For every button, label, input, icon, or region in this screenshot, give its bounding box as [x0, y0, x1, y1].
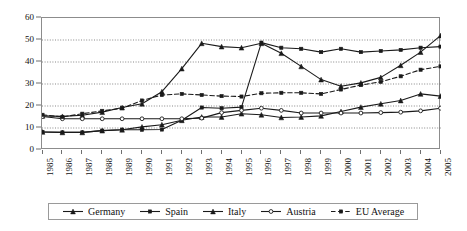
x-axis-tick-mark	[300, 150, 301, 154]
x-axis-tick-label: 1997	[284, 158, 293, 176]
x-axis-tick-mark	[320, 150, 321, 154]
y-axis-tick-label: 60	[25, 13, 34, 22]
x-axis-tick-label: 2001	[364, 158, 373, 176]
x-axis-tick-mark	[360, 150, 361, 154]
x-axis-tick-label: 2000	[344, 158, 353, 176]
x-axis-tick-label: 1991	[165, 158, 174, 176]
legend-marker-icon	[330, 207, 352, 216]
x-axis-tick-mark	[141, 150, 142, 154]
x-axis-tick-label: 1987	[85, 158, 94, 176]
x-axis-tick-mark	[340, 150, 341, 154]
legend-label: Italy	[228, 207, 246, 217]
x-axis-tick-label: 1986	[65, 158, 74, 176]
y-axis-tick-label: 40	[25, 57, 34, 66]
legend-label: EU Average	[356, 207, 404, 217]
legend-marker-icon	[202, 207, 224, 216]
x-axis-tick-mark	[241, 150, 242, 154]
legend-marker-icon	[260, 207, 282, 216]
legend-item-eu-average[interactable]: EU Average	[330, 207, 404, 217]
y-axis: 0102030405060	[0, 0, 41, 160]
x-axis-tick-label: 2004	[424, 158, 433, 176]
plot-canvas	[42, 18, 441, 150]
x-axis-tick-mark	[101, 150, 102, 154]
x-axis-tick-label: 1995	[245, 158, 254, 176]
x-axis-tick-mark	[221, 150, 222, 154]
legend-marker-icon	[139, 207, 161, 216]
chart-legend: GermanySpainItalyAustriaEU Average	[48, 203, 418, 220]
legend-item-italy[interactable]: Italy	[202, 207, 246, 217]
line-chart: 0102030405060 19851986198719881989199019…	[0, 0, 467, 231]
x-axis-tick-mark	[161, 150, 162, 154]
x-axis-tick-mark	[380, 150, 381, 154]
x-axis: 1985198619871988198919901991199219931994…	[41, 150, 440, 208]
x-axis-tick-label: 1988	[105, 158, 114, 176]
legend-label: Spain	[165, 207, 188, 217]
y-axis-tick-label: 30	[25, 79, 34, 88]
legend-item-spain[interactable]: Spain	[139, 207, 188, 217]
y-axis-tick-label: 20	[25, 101, 34, 110]
x-axis-tick-mark	[121, 150, 122, 154]
legend-label: Germany	[88, 207, 125, 217]
x-axis-tick-mark	[201, 150, 202, 154]
y-axis-tick-label: 50	[25, 35, 34, 44]
x-axis-tick-label: 1994	[225, 158, 234, 176]
legend-label: Austria	[286, 207, 315, 217]
plot-area	[41, 17, 440, 149]
y-axis-tick-label: 10	[25, 123, 34, 132]
x-axis-tick-mark	[400, 150, 401, 154]
x-axis-tick-mark	[61, 150, 62, 154]
x-axis-tick-mark	[440, 150, 441, 154]
x-axis-tick-mark	[181, 150, 182, 154]
y-axis-tick-label: 0	[30, 145, 35, 154]
x-axis-tick-mark	[280, 150, 281, 154]
x-axis-tick-label: 2002	[384, 158, 393, 176]
x-axis-tick-mark	[42, 150, 43, 154]
x-axis-tick-mark	[420, 150, 421, 154]
legend-marker-icon	[62, 207, 84, 216]
x-axis-tick-label: 1993	[205, 158, 214, 176]
x-axis-tick-label: 1996	[264, 158, 273, 176]
x-axis-tick-label: 2005	[444, 158, 453, 176]
x-axis-tick-label: 1992	[185, 158, 194, 176]
legend-item-germany[interactable]: Germany	[62, 207, 125, 217]
x-axis-tick-label: 1998	[304, 158, 313, 176]
x-axis-tick-mark	[81, 150, 82, 154]
legend-item-austria[interactable]: Austria	[260, 207, 315, 217]
x-axis-tick-label: 1990	[145, 158, 154, 176]
x-axis-tick-label: 1999	[324, 158, 333, 176]
x-axis-tick-label: 1989	[125, 158, 134, 176]
x-axis-tick-label: 1985	[46, 158, 55, 176]
x-axis-tick-label: 2003	[404, 158, 413, 176]
x-axis-tick-mark	[260, 150, 261, 154]
